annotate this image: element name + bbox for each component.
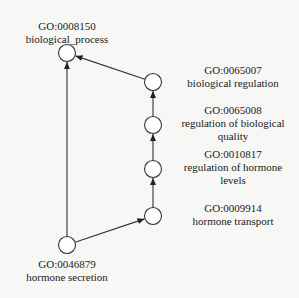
- go-id: GO:0010817: [172, 148, 294, 161]
- node-label-biological-regulation: GO:0065007 biological regulation: [178, 64, 288, 90]
- edge-arrow: [76, 56, 145, 79]
- go-id: GO:0065008: [172, 104, 294, 117]
- go-name: regulation of biological: [172, 117, 294, 130]
- node-label-biological-process: GO:0008150 biological_process: [17, 20, 117, 46]
- go-name-cont: levels: [172, 174, 294, 187]
- node-circle: [145, 74, 162, 91]
- node-circle: [59, 237, 76, 254]
- node-circle: [59, 45, 76, 62]
- go-name: regulation of hormone: [172, 161, 294, 174]
- go-id: GO:0065007: [178, 64, 288, 77]
- go-id: GO:0009914: [178, 202, 288, 215]
- go-id: GO:0046879: [12, 258, 122, 271]
- node-circle: [145, 208, 162, 225]
- node-label-hormone-secretion: GO:0046879 hormone secretion: [12, 258, 122, 284]
- node-label-regulation-of-hormone-levels: GO:0010817 regulation of hormone levels: [172, 148, 294, 187]
- go-name-cont: quality: [172, 130, 294, 143]
- go-name: hormone secretion: [12, 271, 122, 284]
- node-label-hormone-transport: GO:0009914 hormone transport: [178, 202, 288, 228]
- node-circle: [145, 117, 162, 134]
- edge-arrow: [75, 219, 144, 242]
- node-circle: [145, 161, 162, 178]
- go-name: hormone transport: [178, 215, 288, 228]
- go-id: GO:0008150: [17, 20, 117, 33]
- node-label-regulation-of-biological-quality: GO:0065008 regulation of biological qual…: [172, 104, 294, 143]
- go-name: biological_process: [17, 33, 117, 46]
- go-name: biological regulation: [178, 77, 288, 90]
